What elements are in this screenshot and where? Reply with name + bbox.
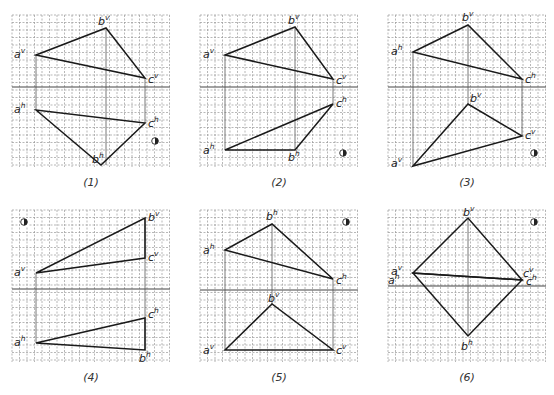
vertex-label-bh: bh bbox=[288, 149, 300, 164]
eye-icon bbox=[20, 218, 28, 226]
eye-icon bbox=[339, 149, 347, 157]
vertex-label-cv: cv bbox=[336, 342, 347, 357]
triangle-v-projection bbox=[413, 104, 522, 166]
panel-caption: (4) bbox=[61, 371, 121, 384]
vertex-label-ch: ch bbox=[525, 71, 536, 86]
panel-drawing: avbvcvahchbh bbox=[12, 15, 170, 167]
vertex-label-av: av bbox=[203, 46, 215, 61]
panel-drawing: bvcvavchahbh bbox=[12, 210, 170, 362]
vertex-label-av: av bbox=[14, 46, 26, 61]
triangle-h-projection bbox=[413, 273, 522, 336]
panel-caption: (5) bbox=[249, 371, 309, 384]
vertex-label-ah: ah bbox=[203, 242, 215, 257]
projection-panel-3: ahbvchbvcvav bbox=[388, 15, 546, 167]
grid bbox=[200, 210, 358, 362]
vertex-label-ch: ch bbox=[336, 95, 347, 110]
projection-panel-4: bvcvavchahbh bbox=[12, 210, 170, 362]
vertex-label-cv: cv bbox=[525, 127, 536, 142]
panel-drawing: avbvcvchahbh bbox=[200, 15, 358, 167]
projection-panel-1: avbvcvahchbh bbox=[12, 15, 170, 167]
vertex-label-av: av bbox=[14, 264, 26, 279]
triangle-v-projection bbox=[36, 218, 145, 273]
projection-panel-6: bvavahcvchbh bbox=[388, 210, 546, 362]
panel-caption: (3) bbox=[437, 176, 497, 189]
projection-panel-5: bhahchbvavcv bbox=[200, 210, 358, 362]
vertex-label-bv: bv bbox=[463, 204, 475, 219]
vertex-label-ah: ah bbox=[14, 334, 26, 349]
triangle-v-projection bbox=[225, 27, 333, 79]
projection-panel-2: avbvcvchahbh bbox=[200, 15, 358, 167]
vertex-label-bv: bv bbox=[470, 90, 482, 105]
vertex-label-bv: bv bbox=[148, 209, 160, 224]
panel-drawing: ahbvchbvcvav bbox=[388, 15, 546, 167]
grid bbox=[200, 15, 358, 167]
vertex-label-av: av bbox=[391, 155, 403, 170]
vertex-label-cv: cv bbox=[148, 249, 159, 264]
triangle-v-projection bbox=[36, 28, 145, 78]
vertex-label-cv: cv bbox=[148, 71, 159, 86]
panel-caption: (1) bbox=[61, 176, 121, 189]
vertex-label-bv: bv bbox=[268, 290, 280, 305]
vertex-label-ah: ah bbox=[14, 101, 26, 116]
vertex-label-av: av bbox=[203, 342, 215, 357]
eye-icon bbox=[151, 137, 159, 145]
panel-drawing: bvavahcvchbh bbox=[388, 210, 546, 362]
vertex-label-bv: bv bbox=[98, 13, 110, 28]
triangle-h-projection bbox=[413, 25, 522, 79]
vertex-label-cv: cv bbox=[336, 72, 347, 87]
vertex-label-bh: bh bbox=[139, 350, 151, 365]
vertex-label-bv: bv bbox=[288, 12, 300, 27]
triangle-h-projection bbox=[36, 110, 145, 165]
vertex-label-ah: ah bbox=[203, 142, 215, 157]
vertex-label-ch: ch bbox=[148, 306, 159, 321]
panel-caption: (2) bbox=[249, 176, 309, 189]
vertex-label-bh: bh bbox=[266, 208, 278, 223]
triangle-h-projection bbox=[225, 104, 333, 150]
panel-caption: (6) bbox=[437, 371, 497, 384]
triangle-v-projection bbox=[413, 218, 522, 280]
vertex-label-bv: bv bbox=[462, 9, 474, 24]
triangle-v-projection bbox=[225, 304, 333, 350]
eye-icon bbox=[530, 149, 538, 157]
vertex-label-ah: ah bbox=[391, 43, 403, 58]
eye-icon bbox=[530, 218, 538, 226]
panel-drawing: bhahchbvavcv bbox=[200, 210, 358, 362]
eye-icon bbox=[342, 218, 350, 226]
vertex-label-ah: ah bbox=[388, 272, 400, 287]
vertex-label-bh: bh bbox=[461, 338, 473, 353]
